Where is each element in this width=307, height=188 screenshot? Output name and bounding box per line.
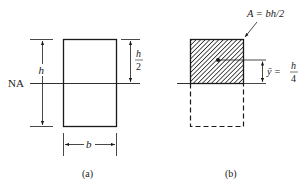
figure-a: NA h h 2 b (a) bbox=[8, 40, 143, 181]
height-label: h bbox=[39, 64, 45, 76]
centroid-denominator: 4 bbox=[291, 73, 296, 84]
area-leader-arrow bbox=[245, 22, 257, 37]
area-label: A = bh/2 bbox=[246, 8, 285, 19]
half-height-denominator: 2 bbox=[136, 61, 141, 72]
half-height-numerator: h bbox=[136, 48, 141, 59]
centroid-label: ȳ = bbox=[266, 66, 281, 77]
beam-cross-section-diagram: NA h h 2 b (a) ȳ = h 4 A = bh/2 bbox=[0, 0, 307, 188]
dashed-lower-half bbox=[191, 84, 244, 127]
figure-b: ȳ = h 4 A = bh/2 (b) bbox=[177, 8, 298, 180]
neutral-axis-label: NA bbox=[8, 77, 24, 89]
caption-a: (a) bbox=[82, 168, 93, 180]
width-label: b bbox=[86, 138, 92, 150]
caption-b: (b) bbox=[225, 168, 237, 180]
centroid-numerator: h bbox=[291, 60, 296, 71]
rectangular-cross-section bbox=[64, 40, 117, 127]
